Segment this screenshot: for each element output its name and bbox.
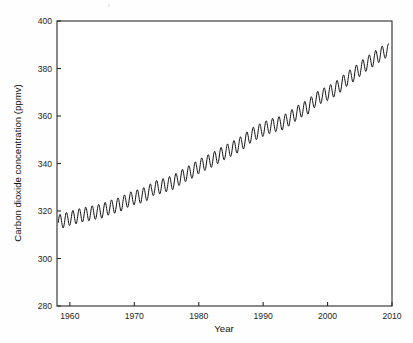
figure-canvas: 280300320340360380400 196019701980199020… [0, 0, 413, 343]
x-tick-label: 2010 [382, 311, 401, 321]
y-tick-label: 380 [38, 64, 53, 74]
x-axis-title: Year [214, 323, 234, 334]
y-tick-label: 300 [38, 254, 53, 264]
plot-area-background [57, 21, 392, 306]
y-tick-label: 400 [38, 16, 53, 26]
y-tick-label: 280 [38, 301, 53, 311]
y-axis-title: Carbon dioxide concentration (ppmv) [12, 84, 23, 241]
y-tick-label: 320 [38, 206, 53, 216]
x-tick-label: 1960 [60, 311, 79, 321]
y-tick-label: 340 [38, 159, 53, 169]
x-tick-label: 2000 [318, 311, 337, 321]
y-tick-label: 360 [38, 111, 53, 121]
x-tick-label: 1990 [254, 311, 273, 321]
x-tick-label: 1970 [125, 311, 144, 321]
x-tick-label: 1980 [189, 311, 208, 321]
co2-line-chart: 280300320340360380400 196019701980199020… [0, 0, 413, 343]
